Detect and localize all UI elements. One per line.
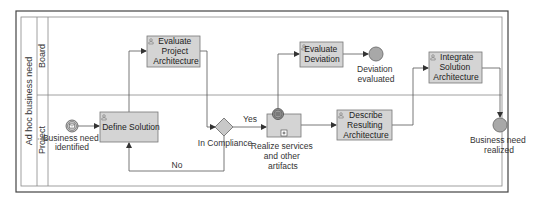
svg-text:Evaluate Deviation: Evaluate Deviation xyxy=(304,44,340,64)
task-evaluate-project-architecture[interactable]: Evaluate Project Architecture xyxy=(147,36,200,67)
end-event-business-need-realized[interactable]: Business need realized xyxy=(470,118,528,155)
end-event-deviation-evaluated[interactable]: Deviation evaluated xyxy=(357,47,395,84)
diagram-frame xyxy=(16,11,508,192)
task-define-solution[interactable]: Define Solution xyxy=(100,112,160,142)
gateway-in-compliance[interactable]: In Compliance Yes No xyxy=(172,114,257,170)
flow-define-to-evaluate xyxy=(129,51,146,112)
subprocess-realize-services[interactable]: Realize services and other artifacts xyxy=(251,114,315,171)
svg-text:Integrate Solution: Integrate Solution Architecture xyxy=(433,52,479,82)
lane-label-board: Board xyxy=(37,44,47,68)
task-evaluate-deviation[interactable]: Evaluate Deviation xyxy=(300,42,343,67)
svg-text:Describe Resulting: Describe Resulting Architecture xyxy=(343,110,389,140)
flow-evaluate-to-gateway xyxy=(200,51,215,127)
pool: Ad hoc business need Board Project xyxy=(21,17,502,186)
svg-text:Realize services and oth: Realize services and other artifacts xyxy=(251,141,315,171)
svg-text:Deviation evaluated: Deviation evaluated xyxy=(357,64,395,84)
svg-text:In Compliance: In Compliance xyxy=(198,138,253,148)
flow-integrate-to-end xyxy=(482,68,500,117)
boundary-event-icon[interactable] xyxy=(273,109,284,120)
flow-describe-to-integrate xyxy=(392,68,428,125)
task-describe-resulting-architecture[interactable]: Describe Resulting Architecture xyxy=(337,110,392,140)
pool-label: Ad hoc business need xyxy=(24,57,34,146)
svg-text:Business need identified: Business need identified xyxy=(43,133,101,152)
svg-text:Define Solution: Define Solution xyxy=(102,122,160,132)
flow-label-yes: Yes xyxy=(243,114,257,124)
start-event-business-need-identified[interactable]: Business need identified xyxy=(43,120,101,152)
task-integrate-solution-architecture[interactable]: Integrate Solution Architecture xyxy=(429,52,482,83)
flow-boundary-to-deviation xyxy=(278,54,299,108)
flow-label-no: No xyxy=(172,160,183,170)
svg-text:Business need realized: Business need realized xyxy=(470,135,528,155)
expand-marker-icon[interactable] xyxy=(281,130,287,136)
